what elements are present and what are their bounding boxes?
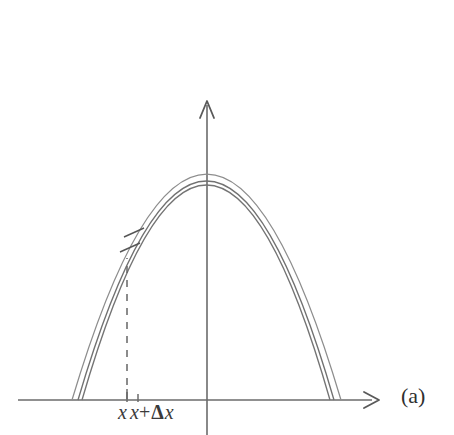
figure-panel: x x+Δx (a): [0, 0, 454, 435]
panel-label: (a): [401, 385, 425, 407]
delta-icon: Δ: [150, 401, 165, 423]
x-plus-delta-plus-sign: +: [139, 401, 150, 423]
figure-drawing: [0, 0, 454, 435]
curve-inner-parabola: [82, 185, 330, 400]
x-axis-tick-label-x-plus-delta-x: x+Δx: [130, 402, 174, 422]
axes-group: [18, 101, 379, 435]
x-plus-delta-prefix: x: [130, 401, 139, 423]
curve-middle-parabola: [78, 181, 334, 400]
strip-crossbar-upper: [124, 228, 144, 237]
x-axis-tick-label-x: x: [118, 402, 127, 422]
strip-crossbar-lower: [120, 243, 140, 252]
x-plus-delta-suffix: x: [165, 401, 174, 423]
